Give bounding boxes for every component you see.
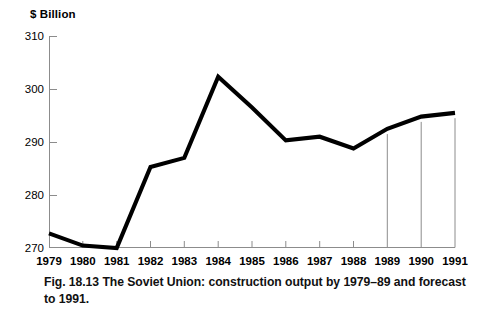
x-tick-label-1985: 1985 [239, 255, 265, 267]
x-tick-label-1991: 1991 [442, 255, 468, 267]
x-tick-label-1980: 1980 [70, 255, 96, 267]
y-tick-label-270: 270 [25, 242, 44, 254]
figure-caption: Fig. 18.13 The Soviet Union: constructio… [44, 274, 468, 308]
y-tick-label-280: 280 [25, 189, 44, 201]
x-tick-label-1986: 1986 [273, 255, 299, 267]
y-axis-unit-label: $ Billion [30, 8, 76, 20]
x-tick-label-1990: 1990 [408, 255, 434, 267]
figure-container: $ Billion 310 300 290 280 270 [0, 0, 486, 317]
x-tick-label-1988: 1988 [341, 255, 367, 267]
x-tick-label-1987: 1987 [307, 255, 333, 267]
y-tick-label-310: 310 [25, 30, 44, 42]
y-tick-label-300: 300 [25, 83, 44, 95]
chart-background [0, 0, 486, 270]
x-tick-label-1981: 1981 [104, 255, 130, 267]
x-tick-label-1982: 1982 [138, 255, 164, 267]
chart-plot-area: $ Billion 310 300 290 280 270 [0, 0, 486, 270]
x-tick-label-1989: 1989 [375, 255, 401, 267]
x-tick-label-1979: 1979 [36, 255, 62, 267]
y-tick-label-290: 290 [25, 136, 44, 148]
x-tick-label-1984: 1984 [205, 255, 231, 267]
x-tick-label-1983: 1983 [172, 255, 198, 267]
line-chart-svg: $ Billion 310 300 290 280 270 [0, 0, 486, 270]
